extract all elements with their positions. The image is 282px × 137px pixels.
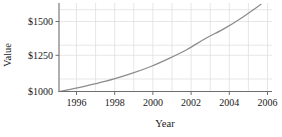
data-series-value	[59, 4, 261, 91]
horizontal-gridlines	[59, 10, 272, 79]
x-tick-label-2004: 2004	[219, 97, 239, 108]
y-tick-label-1500: $1500	[28, 16, 53, 27]
x-tick-label-2006: 2006	[258, 97, 278, 108]
line-chart: $1500 $1250 $1000 1996 1998 2000 2002 20…	[0, 0, 282, 137]
x-axis-title: Year	[155, 118, 175, 129]
y-axis-title: Value	[2, 43, 13, 67]
chart-figure: $1500 $1250 $1000 1996 1998 2000 2002 20…	[0, 0, 282, 137]
x-tick-label-2000: 2000	[143, 97, 163, 108]
x-tick-label-1996: 1996	[67, 97, 87, 108]
x-tick-label-1998: 1998	[105, 97, 125, 108]
y-tick-label-1250: $1250	[28, 50, 53, 61]
x-tick-label-2002: 2002	[181, 97, 201, 108]
vertical-gridlines	[77, 3, 268, 92]
y-tick-label-1000: $1000	[28, 86, 53, 97]
